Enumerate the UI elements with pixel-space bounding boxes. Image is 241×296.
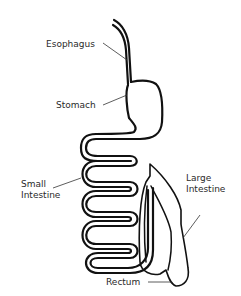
label-small-intestine-line2: Intestine [21,190,61,200]
label-rectum: Rectum [106,277,140,287]
label-small-intestine-line1: Small [21,179,46,189]
stomach [81,81,162,148]
label-stomach: Stomach [56,100,96,110]
small-intestine-leader [53,178,81,188]
stomach-leader [103,95,127,105]
large-intestine-leader [183,215,200,238]
label-large-intestine-line2: Intestine [186,184,226,194]
digestive-system-diagram: Esophagus Stomach Small Intestine Large … [0,0,241,296]
label-large-intestine-line1: Large [186,173,212,183]
esophagus-leader [103,43,127,60]
label-esophagus: Esophagus [46,39,95,49]
